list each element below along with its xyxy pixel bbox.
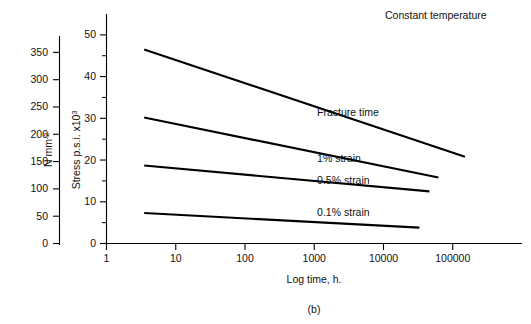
data-curve	[144, 165, 429, 191]
x-tick-label: 1	[104, 252, 110, 264]
panel-label: (b)	[308, 303, 321, 315]
secondary-y-tick-label: 50	[36, 210, 48, 222]
primary-y-axis: 01020304050 Stress p.s.i. x103	[70, 14, 107, 249]
primary-y-tick-label: 40	[84, 70, 96, 82]
curve-label-group: Fracture time1% strain0.5% strain0.1% st…	[317, 106, 379, 217]
secondary-y-tick-label: 350	[30, 46, 48, 58]
primary-y-tick-label: 0	[90, 237, 96, 249]
primary-y-tick-label: 50	[84, 28, 96, 40]
secondary-y-tick-label: 250	[30, 100, 48, 112]
primary-y-tick-label: 30	[84, 112, 96, 124]
x-axis-title: Log time, h.	[287, 273, 342, 285]
curve-label: Fracture time	[317, 106, 379, 118]
constant-temperature-note: Constant temperature	[385, 9, 487, 21]
curve-label: 1% strain	[317, 152, 361, 164]
chart-canvas: 050100150200250300350 N mm-2 01020304050…	[0, 0, 531, 324]
secondary-y-axis: 050100150200250300350 N mm-2	[30, 36, 59, 249]
primary-y-minor-tick-group	[102, 56, 107, 223]
curve-label: 0.5% strain	[317, 174, 370, 186]
x-tick-label: 10000	[369, 252, 398, 264]
x-tick-label: 1000	[303, 252, 327, 264]
data-curve	[144, 49, 465, 156]
data-curve	[144, 213, 419, 228]
secondary-y-tick-label: 0	[42, 237, 48, 249]
creep-rupture-chart-figure: 050100150200250300350 N mm-2 01020304050…	[0, 0, 531, 324]
x-tick-group: 110100100010000100000	[104, 244, 471, 265]
curve-label: 0.1% strain	[317, 206, 370, 218]
x-tick-label: 100000	[435, 252, 470, 264]
x-tick-label: 10	[170, 252, 182, 264]
data-curve-group	[144, 49, 465, 227]
x-tick-label: 100	[236, 252, 254, 264]
secondary-y-tick-label: 300	[30, 73, 48, 85]
primary-y-axis-title: Stress p.s.i. x103	[70, 111, 82, 190]
primary-y-tick-label: 10	[84, 195, 96, 207]
primary-y-tick-label: 20	[84, 154, 96, 166]
secondary-y-tick-label: 100	[30, 182, 48, 194]
secondary-y-axis-title: N mm-2	[42, 133, 54, 167]
x-axis: 110100100010000100000 Log time, h.	[104, 244, 522, 286]
